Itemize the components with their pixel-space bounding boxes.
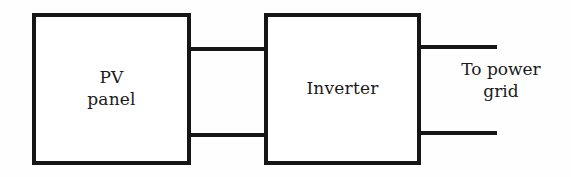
pv-panel-label: PV panel	[87, 67, 135, 111]
ac-wire-top	[419, 45, 497, 49]
power-grid-label: To power grid	[437, 58, 565, 102]
dc-wire-top	[189, 47, 266, 51]
dc-wire-bottom	[189, 133, 266, 137]
inverter-block: Inverter	[264, 13, 421, 165]
pv-panel-block: PV panel	[32, 13, 191, 165]
inverter-label: Inverter	[306, 78, 378, 100]
ac-wire-bottom	[419, 131, 497, 135]
diagram-canvas: PV panel Inverter To power grid	[0, 0, 571, 177]
